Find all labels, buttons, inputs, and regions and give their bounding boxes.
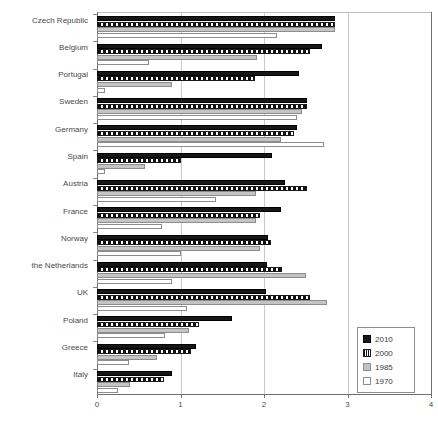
bar-2000-sweden — [97, 104, 307, 109]
legend-label-2000: 2000 — [375, 349, 393, 358]
bar-2010-norway — [97, 235, 268, 240]
category-label-the-netherlands: the Netherlands — [32, 261, 88, 271]
x-tick-0 — [97, 394, 98, 398]
chart-legend: 2010200019851970 — [357, 327, 415, 393]
x-tick-4 — [431, 394, 432, 398]
category-label-portugal: Portugal — [58, 70, 88, 80]
bar-2000-portugal — [97, 76, 255, 81]
legend-label-1970: 1970 — [375, 377, 393, 386]
bar-2000-the-netherlands — [97, 267, 282, 272]
legend-item-2000[interactable]: 2000 — [363, 346, 410, 360]
x-tick-1 — [181, 394, 182, 398]
bar-1985-italy — [97, 382, 130, 387]
category-label-france: France — [63, 207, 88, 217]
bar-group-row: Belgium — [97, 39, 432, 66]
bar-1985-poland — [97, 328, 189, 333]
category-tick — [93, 341, 97, 342]
category-tick — [93, 178, 97, 179]
legend-label-1985: 1985 — [375, 363, 393, 372]
bar-2000-norway — [97, 240, 271, 245]
x-tick-2 — [264, 394, 265, 398]
bar-1970-belgium — [97, 60, 149, 65]
bar-2010-uk — [97, 289, 266, 294]
bar-group-row: Portugal — [97, 67, 432, 94]
horizontal-bar-chart: 01234 Czech RepublicBelgiumPortugalSwede… — [0, 0, 438, 435]
bar-1970-uk — [97, 306, 187, 311]
bar-1970-greece — [97, 360, 129, 365]
bar-2010-the-netherlands — [97, 262, 267, 267]
category-tick — [93, 150, 97, 151]
bar-group-row: Germany — [97, 121, 432, 148]
bar-2000-spain — [97, 158, 181, 163]
x-tick-label-1: 1 — [178, 400, 182, 409]
bar-2000-greece — [97, 349, 191, 354]
category-label-poland: Poland — [63, 316, 88, 326]
x-tick-label-2: 2 — [262, 400, 266, 409]
category-tick — [93, 96, 97, 97]
legend-swatch-icon-1985 — [363, 363, 371, 371]
category-label-germany: Germany — [55, 125, 88, 135]
bar-1970-spain — [97, 169, 105, 174]
bar-2010-belgium — [97, 44, 322, 49]
x-tick-label-4: 4 — [429, 400, 433, 409]
bar-1970-czech-republic — [97, 33, 277, 38]
category-label-spain: Spain — [68, 152, 88, 162]
bar-2010-austria — [97, 180, 285, 185]
category-tick — [93, 287, 97, 288]
category-label-italy: Italy — [73, 370, 88, 380]
bar-2010-italy — [97, 371, 172, 376]
category-label-norway: Norway — [61, 234, 88, 244]
bar-group-row: UK — [97, 285, 432, 312]
category-tick — [93, 314, 97, 315]
bar-2010-czech-republic — [97, 16, 335, 21]
category-label-belgium: Belgium — [59, 43, 88, 53]
category-tick — [93, 369, 97, 370]
legend-item-1985[interactable]: 1985 — [363, 360, 410, 374]
bar-group-row: Austria — [97, 176, 432, 203]
bar-1970-portugal — [97, 88, 105, 93]
category-label-sweden: Sweden — [59, 97, 88, 107]
bar-2010-poland — [97, 316, 232, 321]
category-tick — [93, 14, 97, 15]
legend-item-2010[interactable]: 2010 — [363, 332, 410, 346]
bar-2000-belgium — [97, 49, 310, 54]
bar-2010-france — [97, 207, 281, 212]
bar-2000-uk — [97, 295, 310, 300]
bar-1985-spain — [97, 164, 145, 169]
bar-1970-france — [97, 224, 162, 229]
bar-2010-greece — [97, 344, 196, 349]
bar-1985-norway — [97, 246, 260, 251]
bar-2010-sweden — [97, 98, 307, 103]
category-tick — [93, 123, 97, 124]
bar-1985-portugal — [97, 82, 172, 87]
bar-2000-italy — [97, 377, 164, 382]
category-label-greece: Greece — [62, 343, 88, 353]
bar-1970-germany — [97, 142, 324, 147]
bar-group-row: Sweden — [97, 94, 432, 121]
bar-2000-poland — [97, 322, 199, 327]
category-label-austria: Austria — [63, 179, 88, 189]
bar-2000-czech-republic — [97, 22, 335, 27]
bar-1985-belgium — [97, 55, 257, 60]
bar-group-row: Spain — [97, 148, 432, 175]
x-tick-label-0: 0 — [95, 400, 99, 409]
bar-2010-portugal — [97, 71, 299, 76]
bar-1985-france — [97, 218, 256, 223]
bar-group-row: Czech Republic — [97, 12, 432, 39]
bar-1985-greece — [97, 355, 157, 360]
bar-1970-poland — [97, 333, 165, 338]
legend-swatch-icon-1970 — [363, 377, 371, 385]
bar-group-row: the Netherlands — [97, 258, 432, 285]
bar-2000-austria — [97, 186, 307, 191]
legend-item-1970[interactable]: 1970 — [363, 374, 410, 388]
bar-1985-sweden — [97, 109, 302, 114]
bar-2010-spain — [97, 153, 272, 158]
bar-1985-the-netherlands — [97, 273, 306, 278]
bar-1970-norway — [97, 251, 181, 256]
bar-group-row: France — [97, 203, 432, 230]
bar-1985-germany — [97, 137, 281, 142]
category-label-czech-republic: Czech Republic — [32, 16, 88, 26]
bar-2010-germany — [97, 125, 297, 130]
category-tick — [93, 232, 97, 233]
category-tick — [93, 69, 97, 70]
